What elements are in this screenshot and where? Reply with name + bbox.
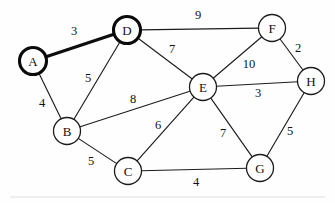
- edge-weight-f-h: 2: [295, 41, 301, 55]
- edge-weight-g-h: 5: [287, 124, 293, 138]
- graph-edge-c-e: [137, 97, 195, 162]
- edge-weight-a-d: 3: [71, 24, 77, 38]
- graph-node-c[interactable]: C: [115, 158, 142, 185]
- graph-node-g[interactable]: G: [247, 155, 274, 182]
- node-label-c: C: [124, 164, 133, 179]
- graph-canvas: ABCDEFGH 345859764103725: [0, 0, 335, 203]
- edge-weight-b-d: 5: [85, 71, 91, 85]
- graph-edge-g-h: [267, 92, 305, 157]
- graph-edge-d-f: [140, 28, 259, 30]
- graph-node-a[interactable]: A: [20, 48, 47, 75]
- graph-edge-b-d: [74, 41, 121, 120]
- graph-edge-d-e: [137, 38, 192, 79]
- graph-node-d[interactable]: D: [114, 17, 141, 44]
- edge-weight-e-g: 7: [220, 126, 226, 140]
- edge-weight-c-g: 4: [193, 175, 200, 189]
- edge-weight-d-e: 7: [169, 42, 175, 56]
- edge-weight-c-e: 6: [155, 118, 161, 132]
- graph-node-e[interactable]: E: [190, 74, 217, 101]
- node-label-e: E: [199, 80, 207, 95]
- graph-node-b[interactable]: B: [54, 118, 81, 145]
- graph-node-f[interactable]: F: [259, 15, 286, 42]
- edge-weight-b-c: 5: [88, 154, 94, 168]
- graph-edge-b-c: [78, 138, 117, 164]
- edge-weight-b-e: 8: [130, 92, 136, 106]
- node-label-f: F: [268, 21, 275, 36]
- node-label-b: B: [63, 124, 72, 139]
- node-label-d: D: [122, 23, 131, 38]
- node-label-h: H: [306, 74, 315, 89]
- graph-node-h[interactable]: H: [298, 68, 325, 95]
- graph-edge-e-g: [210, 98, 252, 158]
- edge-weight-e-f: 10: [243, 57, 256, 71]
- graph-edge-a-d: [45, 34, 114, 57]
- graph-edge-c-g: [141, 168, 247, 170]
- edge-weight-a-b: 4: [39, 96, 46, 110]
- edge-weight-d-f: 9: [195, 8, 201, 22]
- edge-weight-e-h: 3: [255, 86, 261, 100]
- node-label-g: G: [255, 161, 264, 176]
- node-layer: ABCDEFGH: [20, 15, 325, 185]
- graph-diagram: ABCDEFGH 345859764103725: [0, 0, 335, 203]
- node-label-a: A: [28, 54, 38, 69]
